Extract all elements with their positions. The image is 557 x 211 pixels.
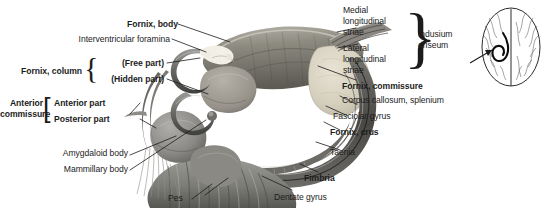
brain-superior-view-inset xyxy=(470,8,540,86)
label-fasciolar-gyrus: Fasciolar gyrus xyxy=(333,112,391,122)
label-free-part: (Free part) xyxy=(96,59,164,69)
label-fornix-body: Fornix, body xyxy=(60,20,178,30)
brace-fornix-column: { xyxy=(84,53,98,83)
label-mammillary-body: Mammillary body xyxy=(20,165,128,175)
label-pes: Pes xyxy=(168,194,183,204)
label-fornix-commissure: Fornix, commissure xyxy=(342,82,423,92)
label-medial-striae-line3: striae xyxy=(343,28,364,38)
label-lateral-striae-line3: striae xyxy=(343,66,364,76)
anatomy-figure-fornix: Fornix, body Interventricular foramina (… xyxy=(0,0,557,211)
label-anterior-part: Anterior part xyxy=(54,99,105,109)
label-taenia: Taenia xyxy=(330,148,355,158)
label-amygdaloid-body: Amygdaloid body xyxy=(20,149,128,159)
label-anterior-commissure-line1: Anterior xyxy=(0,99,43,109)
label-medial-striae-line2: longitudinal xyxy=(343,17,386,27)
label-interventricular-foramina: Interventricular foramina xyxy=(42,35,170,45)
label-indusium-line2: griseum xyxy=(418,41,448,51)
label-lateral-striae-line2: longitudinal xyxy=(343,55,386,65)
label-hidden-part: (Hidden part) xyxy=(92,75,164,85)
label-fornix-crus: Fornix, crus xyxy=(330,128,379,138)
label-corpus-callosum-splenium: Corpus callosum, splenium xyxy=(342,96,444,106)
label-indusium-line1: Indusium xyxy=(418,30,452,40)
label-fornix-column: Fornix, column xyxy=(0,67,82,77)
label-lateral-striae-line1: Lateral xyxy=(343,44,369,54)
thalamus-mass xyxy=(200,66,256,113)
label-anterior-commissure-line2: commissure xyxy=(0,110,43,120)
label-dentate-gyrus: Dentate gyrus xyxy=(274,193,327,203)
label-posterior-part: Posterior part xyxy=(54,115,110,125)
label-fimbria: Fimbria xyxy=(304,174,335,184)
label-medial-striae-line1: Medial xyxy=(343,6,368,16)
